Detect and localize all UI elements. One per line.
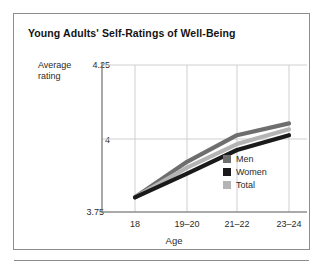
- figure-container: Young Adults' Self-Ratings of Well-Being…: [13, 13, 310, 250]
- x-axis-title: Age: [144, 235, 204, 246]
- legend-item-women: Women: [223, 165, 267, 178]
- legend-label-men: Men: [236, 154, 254, 164]
- legend-swatch-total: [223, 181, 231, 189]
- figure-title: Young Adults' Self-Ratings of Well-Being: [28, 27, 296, 40]
- legend-item-men: Men: [223, 152, 267, 165]
- legend-label-total: Total: [236, 180, 255, 190]
- legend-swatch-men: [223, 155, 231, 163]
- legend-swatch-women: [223, 168, 231, 176]
- legend-label-women: Women: [236, 167, 267, 177]
- chart-plot-region: Average rating 4.25 4 3.75: [14, 47, 309, 227]
- x-axis-tick-label: 23–24: [262, 219, 316, 229]
- x-axis-tick-label: 21–22: [210, 219, 264, 229]
- legend-item-total: Total: [223, 178, 267, 191]
- footer-divider: [14, 260, 309, 261]
- x-axis-tick-label: 19–20: [160, 219, 214, 229]
- line-chart-svg: [14, 47, 309, 227]
- x-axis-tick-label: 18: [108, 219, 162, 229]
- chart-legend: Men Women Total: [223, 152, 267, 191]
